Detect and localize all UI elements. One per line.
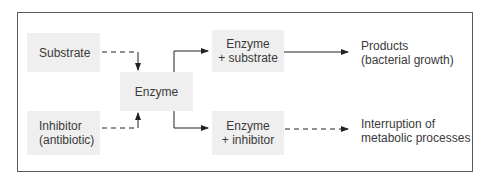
edge-enzyme-enzyme-inhibitor — [174, 111, 208, 128]
edges-layer — [0, 0, 492, 182]
edge-inhibitor-enzyme — [102, 113, 138, 128]
edge-substrate-enzyme — [102, 52, 138, 70]
edge-enzyme-enzyme-substrate — [174, 51, 208, 72]
